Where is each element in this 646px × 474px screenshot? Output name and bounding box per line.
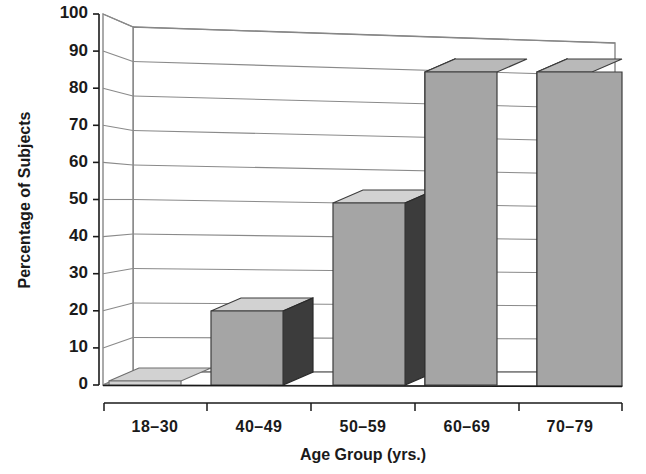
- bar-front-face: [425, 72, 497, 385]
- bar-front-face: [333, 203, 405, 385]
- x-tick-label-70-79: 70–79: [547, 418, 594, 435]
- bar-chart-3d: Percentage of Subjects 100 90 80 70 60 5…: [0, 0, 646, 474]
- bar-40-49: [211, 298, 313, 385]
- bar-side-face: [283, 298, 313, 385]
- x-tick-label-40-49: 40–49: [236, 418, 283, 435]
- x-axis-ruler: [104, 403, 622, 411]
- bar-70-79: [537, 59, 622, 386]
- y-tick-label: 20: [69, 300, 88, 319]
- y-tick-label: 80: [69, 78, 88, 97]
- bar-front-face: [537, 72, 622, 386]
- x-axis-front-edge: [103, 386, 622, 387]
- x-tick-label-18-30: 18–30: [132, 418, 179, 435]
- chart-container: Percentage of Subjects 100 90 80 70 60 5…: [0, 0, 646, 474]
- y-axis-spine: [93, 14, 99, 385]
- bar-50-59: [333, 190, 435, 385]
- y-tick-label: 30: [69, 263, 88, 282]
- y-tick-label: 10: [69, 337, 88, 356]
- y-tick-label: 40: [69, 226, 88, 245]
- y-tick-label: 0: [79, 374, 88, 393]
- y-tick-label: 70: [69, 115, 88, 134]
- x-tick-label-50-59: 50–59: [340, 418, 387, 435]
- x-axis-title: Age Group (yrs.): [300, 446, 426, 463]
- bar-front-face: [109, 381, 181, 385]
- y-tick-label: 50: [69, 189, 88, 208]
- bar-front-face: [211, 311, 283, 385]
- y-tick-label: 90: [69, 41, 88, 60]
- x-tick-label-60-69: 60–69: [444, 418, 491, 435]
- y-tick-label: 60: [69, 152, 88, 171]
- y-axis-title: Percentage of Subjects: [16, 111, 33, 288]
- y-tick-label: 100: [60, 3, 88, 22]
